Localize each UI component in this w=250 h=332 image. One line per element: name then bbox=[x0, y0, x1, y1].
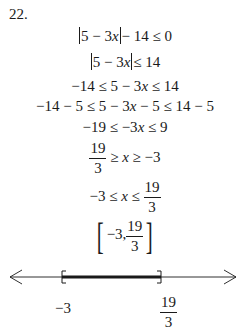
problem-number: 22. bbox=[9, 6, 28, 23]
step-text: −14 − 5 ≤ 5 − 3 bbox=[36, 98, 130, 114]
numerator: 19 bbox=[144, 180, 161, 198]
step-4: −14 − 5 ≤ 5 − 3x − 5 ≤ 14 − 5 bbox=[0, 98, 250, 115]
numerator: 19 bbox=[126, 219, 143, 237]
abs-bar-right bbox=[120, 27, 121, 44]
interval-notation: [−3,193] bbox=[0, 217, 250, 255]
step-1: 5 − 3x− 14 ≤ 0 bbox=[0, 27, 250, 45]
step-text: ≤ 14 bbox=[133, 54, 160, 70]
step-text: 5 − 3 bbox=[93, 54, 124, 70]
step-text: ≤ 14 bbox=[148, 78, 179, 94]
fraction: 193 bbox=[144, 180, 161, 215]
right-endpoint-label: 193 bbox=[160, 295, 177, 330]
fraction: 193 bbox=[89, 141, 106, 176]
step-text: 5 − 3 bbox=[81, 28, 112, 44]
numerator: 19 bbox=[89, 141, 106, 159]
step-7: −3 ≤ x ≤ 193 bbox=[0, 180, 250, 215]
step-text: ≤ bbox=[128, 188, 144, 204]
step-text: ≥ −3 bbox=[129, 149, 161, 165]
step-2: 5 − 3x≤ 14 bbox=[0, 53, 250, 71]
denominator: 3 bbox=[160, 313, 177, 330]
variable: x bbox=[121, 188, 128, 204]
variable: x bbox=[124, 54, 131, 70]
step-6: 193 ≥ x ≥ −3 bbox=[0, 141, 250, 176]
step-text: − 14 ≤ 0 bbox=[122, 28, 172, 44]
step-text: ≥ bbox=[106, 149, 122, 165]
open-bracket: [ bbox=[97, 217, 104, 255]
abs-bar-left bbox=[79, 27, 80, 44]
number-line bbox=[0, 265, 250, 290]
step-text: −3 ≤ bbox=[89, 188, 121, 204]
step-3: −14 ≤ 5 − 3x ≤ 14 bbox=[0, 78, 250, 95]
denominator: 3 bbox=[89, 159, 106, 176]
variable: x bbox=[122, 149, 129, 165]
numerator: 19 bbox=[160, 295, 177, 313]
step-text: −14 ≤ 5 − 3 bbox=[71, 78, 141, 94]
variable: x bbox=[112, 28, 119, 44]
step-text: ≤ 9 bbox=[144, 119, 167, 135]
step-text: −19 ≤ −3 bbox=[82, 119, 137, 135]
denominator: 3 bbox=[126, 237, 143, 254]
step-text: − 5 ≤ 14 − 5 bbox=[136, 98, 214, 114]
close-bracket: ] bbox=[146, 217, 153, 255]
step-text: −3, bbox=[107, 226, 127, 242]
step-5: −19 ≤ −3x ≤ 9 bbox=[0, 119, 250, 136]
left-endpoint-label: −3 bbox=[55, 300, 71, 317]
fraction: 193 bbox=[126, 219, 143, 254]
denominator: 3 bbox=[144, 198, 161, 215]
abs-bar-left bbox=[91, 53, 92, 70]
